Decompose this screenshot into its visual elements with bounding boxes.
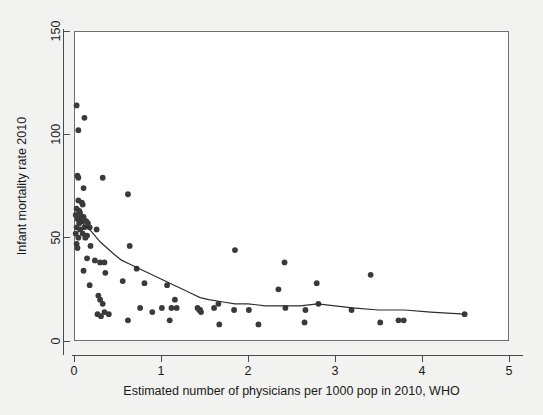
- data-point: [75, 127, 81, 133]
- y-tick-label: 0: [49, 337, 63, 344]
- data-point: [174, 305, 180, 311]
- data-point: [125, 317, 131, 323]
- data-point: [167, 317, 173, 323]
- data-point: [102, 260, 108, 266]
- data-point: [127, 243, 133, 249]
- x-axis-title: Estimated number of physicians per 1000 …: [123, 384, 460, 398]
- data-point: [80, 202, 86, 208]
- data-point: [159, 305, 165, 311]
- data-point: [94, 227, 100, 233]
- data-point: [100, 301, 106, 307]
- x-tick-label: 5: [506, 364, 513, 378]
- data-point: [102, 270, 108, 276]
- data-point: [276, 286, 282, 292]
- data-point: [82, 235, 88, 241]
- x-tick-label: 3: [332, 364, 339, 378]
- data-point: [92, 258, 98, 264]
- data-point: [81, 268, 87, 274]
- data-point: [211, 305, 217, 311]
- data-point: [81, 185, 87, 191]
- data-point: [95, 311, 101, 317]
- data-point: [401, 317, 407, 323]
- data-point: [368, 272, 374, 278]
- data-point: [75, 245, 81, 251]
- data-point: [106, 311, 112, 317]
- scatter-plot: 050100150 012345 Estimated number of phy…: [0, 0, 543, 415]
- y-tick-label: 100: [49, 124, 63, 145]
- data-point: [82, 115, 88, 121]
- data-point: [88, 243, 94, 249]
- data-point: [232, 247, 238, 253]
- y-tick-label: 150: [49, 21, 63, 42]
- data-point: [125, 191, 131, 197]
- data-point: [216, 322, 222, 328]
- y-axis-title: Infant mortality rate 2010: [15, 117, 29, 255]
- data-point: [75, 235, 81, 241]
- data-point: [246, 307, 252, 313]
- data-point: [149, 309, 155, 315]
- data-point: [302, 320, 308, 326]
- data-point: [137, 305, 143, 311]
- data-point: [303, 307, 309, 313]
- plot-area-background: [74, 31, 509, 341]
- data-point: [84, 255, 90, 261]
- data-point: [100, 175, 106, 181]
- chart-figure: 050100150 012345 Estimated number of phy…: [0, 0, 543, 415]
- data-point: [74, 103, 80, 109]
- data-point: [256, 322, 262, 328]
- data-point: [282, 260, 288, 266]
- data-point: [314, 280, 320, 286]
- data-point: [169, 305, 175, 311]
- x-tick-label: 1: [158, 364, 165, 378]
- x-tick-label: 2: [245, 364, 252, 378]
- y-tick-label: 50: [49, 231, 63, 245]
- data-point: [377, 320, 383, 326]
- data-point: [172, 297, 178, 303]
- data-point: [142, 280, 148, 286]
- data-point: [87, 282, 93, 288]
- x-tick-label: 4: [419, 364, 426, 378]
- x-tick-label: 0: [71, 364, 78, 378]
- data-point: [120, 278, 126, 284]
- data-point: [75, 175, 81, 181]
- data-point: [231, 307, 237, 313]
- data-point: [198, 309, 204, 315]
- data-point: [396, 317, 402, 323]
